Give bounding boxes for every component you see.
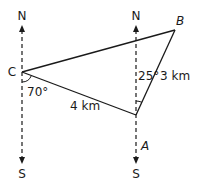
point-label-B: B (176, 14, 184, 28)
point-label-C: C (8, 65, 16, 79)
edge-CB (22, 30, 175, 72)
north-arrow-icon (133, 25, 139, 32)
bearing-diagram: N S N S C A B 70° 25° 4 km 3 km (0, 0, 197, 184)
point-label-A: A (140, 139, 149, 153)
right-south-label: S (132, 167, 140, 181)
right-north-south-line (133, 25, 139, 164)
north-arrow-icon (19, 25, 25, 32)
right-north-label: N (132, 9, 141, 23)
south-arrow-icon (19, 157, 25, 164)
south-arrow-icon (133, 157, 139, 164)
angle-label-C: 70° (27, 85, 48, 99)
left-north-south-line (19, 25, 25, 164)
edge-label-CA: 4 km (70, 99, 100, 113)
angle-arc-C (22, 76, 31, 83)
left-north-label: N (18, 9, 27, 23)
edge-label-AB: 3 km (160, 69, 190, 83)
angle-label-A: 25° (138, 69, 159, 83)
left-south-label: S (18, 167, 26, 181)
angle-arc-A (136, 101, 142, 102)
